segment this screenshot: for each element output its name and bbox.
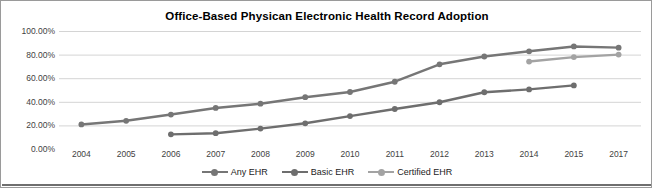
data-point-marker xyxy=(213,105,219,111)
x-axis-tick-label: 2009 xyxy=(296,149,315,159)
data-point-marker xyxy=(347,113,353,119)
bottom-divider xyxy=(2,184,652,186)
data-point-marker xyxy=(481,89,487,95)
data-point-marker xyxy=(258,126,264,132)
x-axis-tick-label: 2005 xyxy=(117,149,136,159)
data-point-marker xyxy=(213,130,219,136)
y-axis-tick-label: 20.00% xyxy=(1,120,55,130)
data-point-marker xyxy=(392,79,398,85)
chart-legend: Any EHRBasic EHRCertified EHR xyxy=(1,164,652,180)
legend-item-label: Certified EHR xyxy=(397,167,452,177)
x-axis-tick-label: 2014 xyxy=(520,149,539,159)
data-point-marker xyxy=(571,54,577,60)
legend-marker-icon xyxy=(202,168,228,177)
x-axis-tick-label: 2013 xyxy=(475,149,494,159)
data-point-marker xyxy=(526,87,532,93)
x-axis-tick-labels: 2004200520062007200820092010201120122013… xyxy=(59,149,641,163)
y-axis-tick-label: 100.00% xyxy=(1,26,55,36)
y-axis-tick-label: 80.00% xyxy=(1,50,55,60)
data-point-marker xyxy=(437,99,443,105)
data-point-marker xyxy=(258,101,264,107)
x-axis-tick-label: 2007 xyxy=(206,149,225,159)
series-line xyxy=(81,46,618,124)
data-point-marker xyxy=(347,89,353,95)
data-point-marker xyxy=(437,61,443,67)
chart-title: Office-Based Physican Electronic Health … xyxy=(1,10,652,22)
x-axis-tick-label: 2008 xyxy=(251,149,270,159)
legend-item[interactable]: Any EHR xyxy=(202,167,268,177)
x-axis-tick-label: 2006 xyxy=(161,149,180,159)
data-point-marker xyxy=(616,45,622,51)
data-point-marker xyxy=(78,122,84,128)
data-point-marker xyxy=(526,59,532,65)
data-point-marker xyxy=(302,120,308,126)
y-axis-tick-label: 0.00% xyxy=(1,144,55,154)
data-point-marker xyxy=(123,118,129,124)
data-point-marker xyxy=(481,54,487,60)
chart-container: Office-Based Physican Electronic Health … xyxy=(0,0,652,188)
data-point-marker xyxy=(526,48,532,54)
legend-item[interactable]: Basic EHR xyxy=(282,167,355,177)
x-axis-tick-label: 2015 xyxy=(564,149,583,159)
data-point-marker xyxy=(392,106,398,112)
x-axis-tick-label: 2004 xyxy=(72,149,91,159)
data-point-marker xyxy=(571,83,577,89)
plot-area xyxy=(59,31,641,149)
data-point-marker xyxy=(616,52,622,58)
y-axis-tick-labels: 0.00%20.00%40.00%60.00%80.00%100.00% xyxy=(1,31,59,149)
x-axis-tick-label: 2010 xyxy=(341,149,360,159)
plot-wrapper: 0.00%20.00%40.00%60.00%80.00%100.00% xyxy=(1,31,652,149)
x-axis-tick-label: 2011 xyxy=(386,149,404,159)
data-point-marker xyxy=(168,112,174,118)
series-line xyxy=(171,85,574,134)
chart-svg xyxy=(59,31,641,149)
y-axis-tick-label: 40.00% xyxy=(1,97,55,107)
legend-item[interactable]: Certified EHR xyxy=(368,167,452,177)
legend-marker-icon xyxy=(282,168,308,177)
legend-item-label: Any EHR xyxy=(231,167,268,177)
x-axis-tick-label: 2012 xyxy=(430,149,449,159)
x-axis-tick-label: 2017 xyxy=(609,149,628,159)
data-point-marker xyxy=(168,131,174,137)
data-point-marker xyxy=(571,44,577,50)
legend-item-label: Basic EHR xyxy=(311,167,355,177)
legend-marker-icon xyxy=(368,168,394,177)
data-point-marker xyxy=(302,94,308,100)
y-axis-tick-label: 60.00% xyxy=(1,73,55,83)
